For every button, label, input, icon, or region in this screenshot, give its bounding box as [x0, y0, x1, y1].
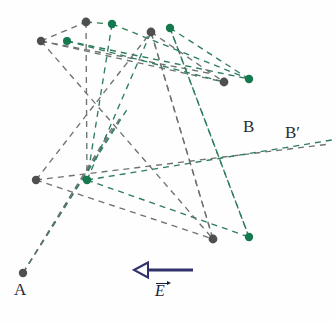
ray-node	[63, 37, 71, 45]
field-arrow-head-icon	[134, 263, 148, 278]
ray-line	[41, 41, 213, 239]
nodes-layer	[19, 18, 253, 278]
label-point-b: B	[243, 118, 254, 135]
ray-node	[37, 37, 45, 45]
ray-line	[87, 140, 332, 180]
ray-node	[245, 75, 253, 83]
rays-layer	[23, 22, 332, 273]
ray-node	[82, 18, 91, 27]
ray-line	[151, 32, 213, 239]
ray-node	[83, 176, 91, 184]
ray-line	[36, 144, 330, 180]
ray-node	[108, 20, 116, 28]
ray-node	[19, 269, 27, 277]
ray-line	[41, 22, 86, 41]
ray-diagram-figure: A B B′ E	[0, 0, 335, 323]
ray-node	[209, 235, 218, 244]
field-arrow-layer	[134, 263, 193, 278]
ray-line	[170, 28, 249, 237]
ray-line	[67, 41, 249, 79]
ray-line	[23, 108, 128, 273]
ray-node	[220, 78, 229, 87]
ray-line	[86, 22, 87, 180]
ray-node	[147, 28, 156, 37]
ray-line	[87, 180, 249, 237]
ray-line	[87, 32, 151, 180]
ray-node	[32, 176, 40, 184]
ray-node	[166, 24, 174, 32]
vector-arrow-accent-icon	[156, 281, 171, 286]
label-point-b-prime: B′	[285, 124, 300, 141]
ray-diagram-canvas	[0, 0, 335, 323]
ray-line	[23, 128, 112, 273]
ray-line	[36, 180, 213, 239]
label-point-a: A	[14, 281, 26, 298]
ray-node	[245, 233, 253, 241]
label-electric-field-vector: E	[155, 281, 171, 299]
